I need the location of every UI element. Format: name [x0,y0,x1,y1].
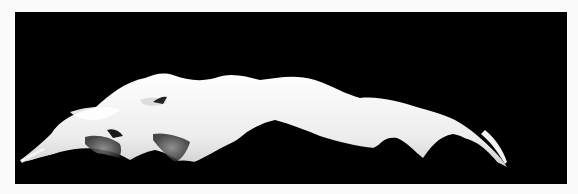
flower-shape [15,12,567,184]
photo-frame [0,0,578,194]
photograph [15,12,567,184]
